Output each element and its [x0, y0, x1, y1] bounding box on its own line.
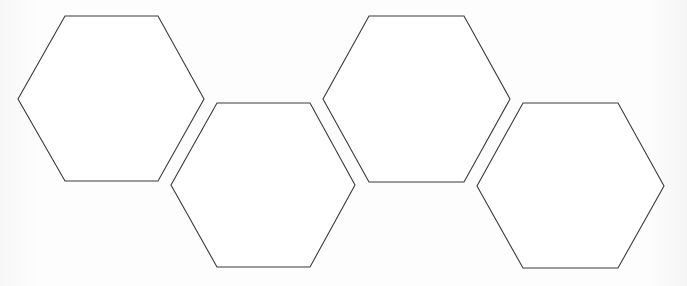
hexagon-4 [477, 103, 664, 268]
hexagon-1 [18, 16, 204, 181]
hexagon-diagram [0, 0, 687, 286]
hexagon-3 [323, 16, 510, 182]
hexagon-2 [171, 103, 355, 267]
diagram-canvas [0, 0, 687, 286]
